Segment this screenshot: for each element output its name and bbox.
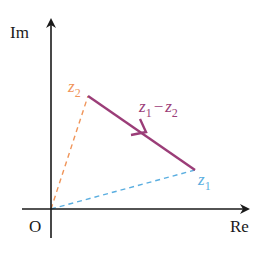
complex-plane-diagram: Im Re O z2 z1 z1−z2: [0, 0, 270, 255]
y-axis-label: Im: [10, 23, 29, 42]
x-axis-label: Re: [230, 217, 249, 236]
point-label-z2: z2: [67, 77, 81, 100]
point-label-z1: z1: [197, 170, 211, 193]
diagram-svg: Im Re O z2 z1 z1−z2: [0, 0, 270, 255]
dashed-segment-origin-z1: [51, 170, 195, 209]
dashed-segment-origin-z2: [51, 96, 88, 209]
vector-label: z1−z2: [138, 97, 178, 120]
origin-label: O: [29, 217, 41, 236]
